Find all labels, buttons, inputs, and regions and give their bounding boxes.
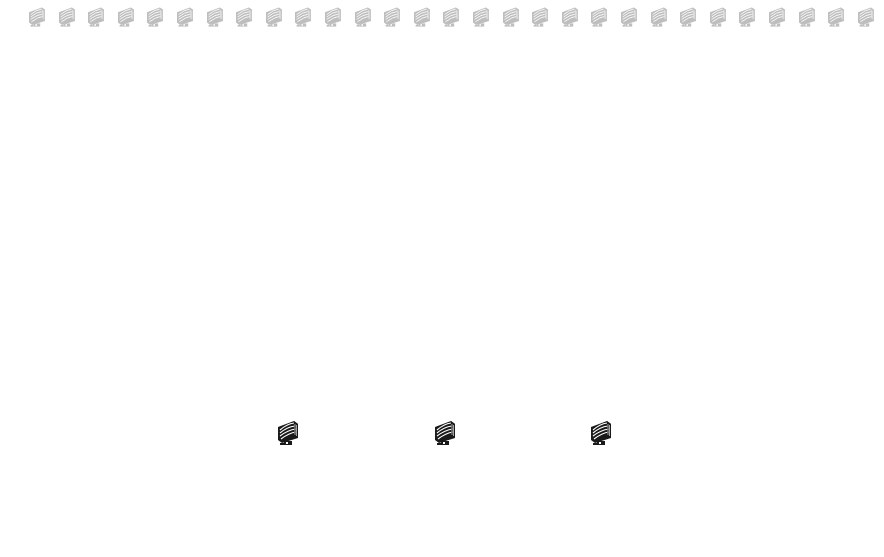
monitor-icon[interactable] [233,5,255,29]
monitor-icon[interactable] [440,5,462,29]
monitor-icon[interactable] [115,5,137,29]
monitor-icon[interactable] [85,5,107,29]
monitor-icon[interactable] [559,5,581,29]
monitor-icon[interactable] [736,5,758,29]
monitor-icon[interactable] [352,5,374,29]
monitor-icon[interactable] [855,5,877,29]
monitor-icon[interactable] [411,5,433,29]
monitor-icon[interactable] [677,5,699,29]
monitor-icon[interactable] [588,418,614,448]
monitor-icon[interactable] [588,5,610,29]
monitor-icon[interactable] [766,5,788,29]
monitor-icon[interactable] [174,5,196,29]
monitor-icon[interactable] [322,5,344,29]
monitor-icon[interactable] [618,5,640,29]
monitor-icon[interactable] [263,5,285,29]
monitor-icon[interactable] [825,5,847,29]
monitor-icon[interactable] [56,5,78,29]
monitor-icon[interactable] [381,5,403,29]
monitor-icon[interactable] [432,418,458,448]
monitor-icon[interactable] [500,5,522,29]
monitor-icon[interactable] [648,5,670,29]
monitor-icon[interactable] [292,5,314,29]
monitor-icon[interactable] [796,5,818,29]
monitor-icon[interactable] [26,5,48,29]
monitor-icon[interactable] [144,5,166,29]
monitor-icon[interactable] [470,5,492,29]
monitor-icon[interactable] [275,418,301,448]
monitor-icon[interactable] [707,5,729,29]
monitor-icon[interactable] [204,5,226,29]
monitor-icon[interactable] [529,5,551,29]
